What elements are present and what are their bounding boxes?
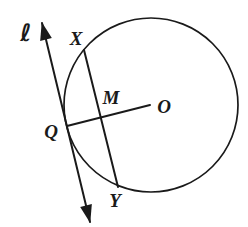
label-point-y: Y [109, 190, 123, 211]
label-point-o: O [157, 96, 171, 117]
segment-q-o [67, 105, 150, 126]
label-point-q: Q [44, 121, 58, 142]
diagram-stage: ℓXMOQY [0, 0, 248, 227]
label-line-l: ℓ [19, 19, 31, 47]
geometry-diagram: ℓXMOQY [0, 0, 248, 227]
diagram-labels: ℓXMOQY [19, 19, 171, 211]
label-point-x: X [69, 28, 84, 49]
label-point-m: M [102, 87, 121, 108]
